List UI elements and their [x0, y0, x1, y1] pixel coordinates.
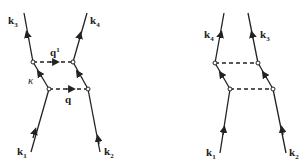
right-diagram [215, 13, 286, 153]
label-k1-right: k1 [206, 146, 216, 161]
label-k4-right: k4 [204, 28, 214, 43]
label-k2-left: k2 [104, 145, 114, 160]
label-k4-left: k4 [90, 14, 100, 29]
label-q: q [65, 93, 72, 105]
feynman-diagrams: k3 k4 q1 q κ k1 k2 k4 k3 k1 k2 [0, 0, 306, 163]
diagram-canvas: k3 k4 q1 q κ k1 k2 k4 k3 k1 k2 [0, 0, 306, 163]
label-kappa: κ [28, 74, 34, 86]
label-k1-left: k1 [17, 145, 27, 160]
label-q-prime: q1 [50, 46, 60, 58]
label-k3-left: k3 [8, 14, 18, 29]
label-k3-right: k3 [260, 28, 270, 43]
left-diagram [24, 13, 100, 152]
label-k2-right: k2 [289, 146, 299, 161]
